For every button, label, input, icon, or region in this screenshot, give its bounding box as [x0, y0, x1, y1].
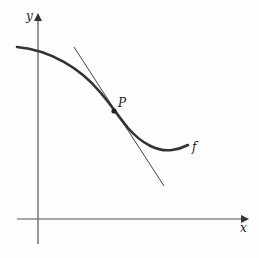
y-axis-label: y: [26, 10, 33, 22]
tangent-line-diagram: y x P f: [0, 0, 259, 258]
function-f-label: f: [192, 141, 196, 153]
function-curve-f: [17, 47, 188, 150]
point-p-label: P: [118, 97, 126, 109]
point-p-marker: [111, 108, 116, 113]
x-axis-label: x: [240, 222, 247, 234]
diagram-graphic: [0, 0, 259, 258]
